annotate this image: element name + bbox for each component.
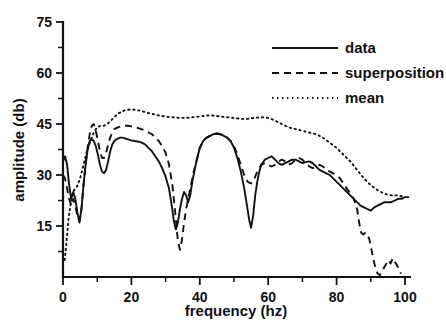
x-tick-label: 80 <box>329 289 345 305</box>
y-tick-label: 45 <box>36 116 52 132</box>
chart-axes <box>63 22 410 277</box>
x-tick-label: 100 <box>393 289 417 305</box>
x-axis-ticks <box>63 277 405 285</box>
y-tick-label: 75 <box>36 14 52 30</box>
chart-series-group <box>63 109 408 275</box>
y-tick-label: 60 <box>36 65 52 81</box>
x-tick-label: 20 <box>124 289 140 305</box>
legend-label-superposition: superposition <box>345 64 444 81</box>
series-superposition <box>63 124 401 275</box>
x-tick-label: 0 <box>59 289 67 305</box>
legend-label-data: data <box>345 39 377 56</box>
chart-legend: data superposition mean <box>272 39 444 106</box>
series-mean <box>65 109 405 260</box>
x-axis-title: frequency (hz) <box>185 302 288 319</box>
y-tick-label: 30 <box>36 167 52 183</box>
y-tick-label: 15 <box>36 218 52 234</box>
y-axis-tick-labels: 1530456075 <box>36 14 52 234</box>
y-axis-title: amplitude (db) <box>10 98 27 201</box>
legend-label-mean: mean <box>345 89 384 106</box>
chart-figure: 1530456075 020406080100 amplitude (db) f… <box>0 0 446 328</box>
chart-plot-area: 1530456075 020406080100 amplitude (db) f… <box>0 0 446 328</box>
